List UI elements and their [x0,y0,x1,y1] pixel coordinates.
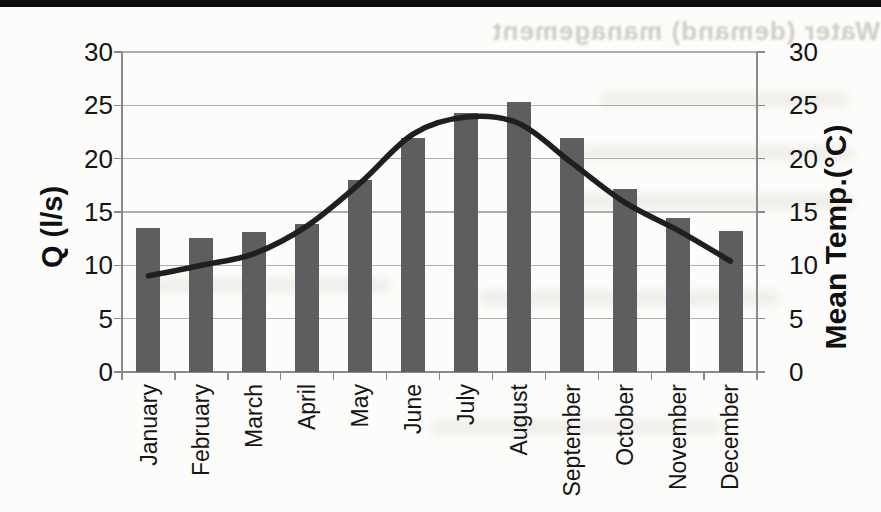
mean-temp-line-layer [0,0,881,512]
right-axis-title: Mean Temp.(°C) [819,125,853,350]
left-axis-title: Q (l/s) [36,186,69,268]
combo-chart: 005510101515202025253030JanuaryFebruaryM… [0,0,881,512]
mean-temp-line [149,116,731,276]
scanned-document-page: Water (demand) management 00551010151520… [0,0,881,512]
